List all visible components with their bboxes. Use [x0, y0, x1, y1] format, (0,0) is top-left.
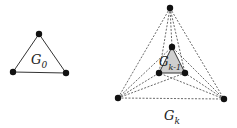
graph-gk: Gk-1 Gk [115, 5, 227, 126]
g0-vertex-top [36, 31, 42, 37]
graph-g0: G0 [10, 31, 69, 76]
gk-vertex-left [115, 95, 121, 101]
g0-label: G0 [31, 52, 47, 70]
inner-vertex-top [169, 44, 175, 50]
inner-vertex-right [182, 70, 188, 76]
diagram-canvas: G0 Gk-1 Gk [0, 0, 237, 128]
gk-vertex-top [167, 5, 173, 11]
inner-vertex-left [156, 70, 162, 76]
gk-vertex-right [221, 96, 227, 102]
g0-vertex-left [10, 69, 16, 75]
gk-label: Gk [164, 108, 180, 126]
g0-vertex-right [63, 70, 69, 76]
